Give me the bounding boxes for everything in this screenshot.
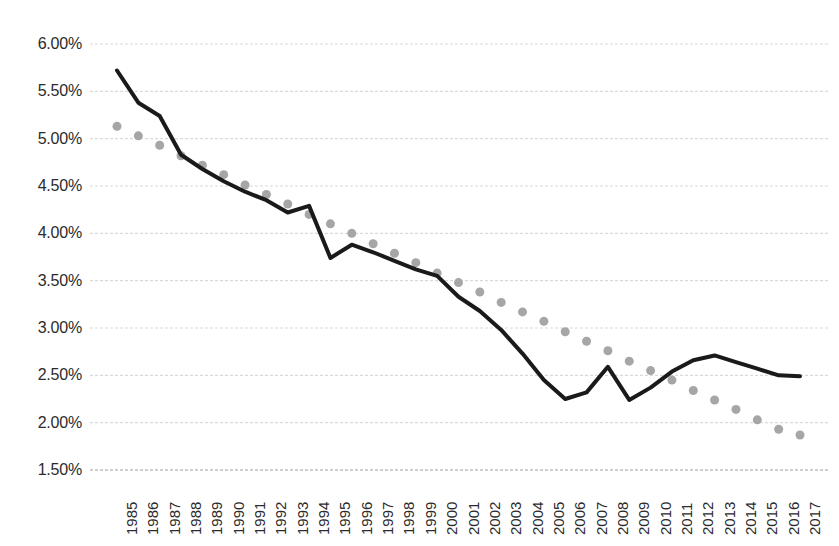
x-axis-tick-label: 1999 [422,502,439,535]
x-axis-tick-label: 2010 [657,502,674,535]
x-axis-tick-label: 2012 [699,502,716,535]
x-axis-tick-label: 2006 [571,502,588,535]
x-axis-tick-label: 1985 [123,502,140,535]
x-axis-tick-label: 2017 [806,502,823,535]
x-axis-tick-labels: 1985198619871988198919901991199219931994… [0,0,839,546]
x-axis-tick-label: 2016 [785,502,802,535]
x-axis-tick-label: 2001 [465,502,482,535]
x-axis-tick-label: 2008 [614,502,631,535]
x-axis-tick-label: 2004 [529,502,546,535]
x-axis-tick-label: 2000 [443,502,460,535]
x-axis-tick-label: 2013 [721,502,738,535]
x-axis-tick-label: 2002 [486,502,503,535]
x-axis-tick-label: 2015 [763,502,780,535]
x-axis-tick-label: 1992 [272,502,289,535]
x-axis-tick-label: 2011 [678,503,695,535]
x-axis-tick-label: 1996 [358,502,375,535]
x-axis-tick-label: 2007 [593,502,610,535]
x-axis-tick-label: 1994 [315,502,332,535]
x-axis-tick-label: 2014 [742,502,759,535]
chart-container: 6.00%5.50%5.00%4.50%4.00%3.50%3.00%2.50%… [0,0,839,546]
x-axis-tick-label: 2005 [550,502,567,535]
x-axis-tick-label: 1993 [294,502,311,535]
x-axis-tick-label: 2009 [635,502,652,535]
x-axis-tick-label: 1998 [400,502,417,535]
x-axis-tick-label: 1988 [187,502,204,535]
x-axis-tick-label: 1987 [166,502,183,535]
x-axis-tick-label: 1995 [336,502,353,535]
x-axis-tick-label: 2003 [507,502,524,535]
x-axis-tick-label: 1997 [379,502,396,535]
x-axis-tick-label: 1991 [251,502,268,535]
x-axis-tick-label: 1986 [144,502,161,535]
x-axis-tick-label: 1989 [208,502,225,535]
x-axis-tick-label: 1990 [230,502,247,535]
